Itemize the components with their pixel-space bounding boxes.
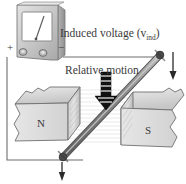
voltmeter[interactable]: + − [7, 2, 65, 60]
induced-voltage-paren: ) [156, 27, 160, 40]
magnet-north: N [14, 87, 80, 141]
relative-motion-label: Relative motion [65, 64, 139, 76]
induced-voltage-subscript: ind [146, 33, 156, 42]
magnet-south: S [121, 88, 184, 147]
rod-top-down-arrow [170, 52, 177, 80]
magnet-north-label: N [37, 117, 45, 129]
induced-voltage-label: Induced voltage (vind) [60, 27, 160, 42]
rod-bottom-down-arrow [59, 162, 65, 181]
svg-text:Induced voltage (vind): Induced voltage (vind) [60, 27, 160, 42]
induced-voltage-figure: N S [0, 0, 186, 184]
magnet-south-label: S [145, 124, 151, 136]
terminal-negative[interactable] [39, 50, 47, 57]
figure-canvas: N S [0, 0, 186, 184]
minus-label: − [58, 41, 64, 53]
terminal-positive[interactable] [19, 49, 27, 56]
plus-label: + [7, 41, 13, 53]
induced-voltage-text: Induced voltage (v [60, 27, 146, 40]
